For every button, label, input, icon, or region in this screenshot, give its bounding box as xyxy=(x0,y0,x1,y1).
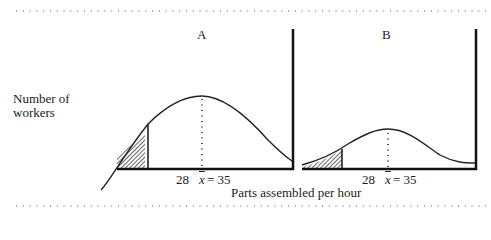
curve-a xyxy=(101,96,292,190)
tick-28-b: 28 xyxy=(362,173,375,187)
panel-b-title: B xyxy=(382,28,391,42)
shaded-tail-a xyxy=(117,134,145,169)
y-axis-label: Number of workers xyxy=(13,92,93,120)
xbar-b: x xyxy=(385,173,391,187)
x-axis-label: Parts assembled per hour xyxy=(231,186,361,200)
tick-28-a: 28 xyxy=(176,173,189,187)
panel-a-title: A xyxy=(197,28,206,42)
xbar-a: x xyxy=(199,173,205,187)
mean-label-a: = 35 xyxy=(207,173,231,187)
panel-b xyxy=(302,29,477,170)
panel-a xyxy=(101,29,294,190)
mean-label-b: = 35 xyxy=(393,173,417,187)
